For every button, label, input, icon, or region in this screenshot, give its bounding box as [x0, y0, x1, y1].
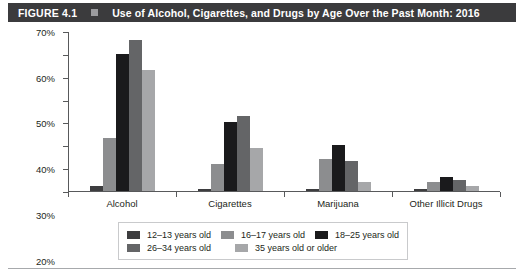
legend-swatch-icon [127, 231, 140, 239]
category-label: Alcohol [68, 198, 176, 209]
bar [237, 116, 250, 191]
bar [345, 161, 358, 191]
chart-legend: 12–13 years old16–17 years old18–25 year… [118, 222, 408, 260]
bar [453, 180, 466, 191]
figure-title: Use of Alcohol, Cigarettes, and Drugs by… [112, 7, 479, 19]
bar [198, 189, 211, 191]
figure-header: FIGURE 4.1 Use of Alcohol, Cigarettes, a… [8, 3, 516, 22]
bottom-divider [8, 268, 516, 269]
x-tick [176, 192, 177, 197]
category-label: Cigarettes [176, 198, 284, 209]
y-tick-label: 50% [36, 118, 55, 129]
y-tick-label: 70% [36, 27, 55, 38]
legend-item: 18–25 years old [315, 230, 399, 240]
legend-item: 26–34 years old [127, 243, 235, 253]
bar-group [284, 31, 392, 191]
bar [211, 164, 224, 191]
legend-label: 18–25 years old [335, 230, 399, 240]
bar [250, 148, 263, 191]
legend-swatch-icon [315, 231, 328, 239]
x-tick [392, 192, 393, 197]
category-label: Marijuana [284, 198, 392, 209]
legend-row: 12–13 years old16–17 years old18–25 year… [127, 228, 399, 241]
figure-number: FIGURE 4.1 [18, 7, 77, 19]
chart-plot-area: 0%10%20%30%40%50%60%70% AlcoholCigarette… [8, 26, 516, 216]
legend-swatch-icon [235, 244, 248, 252]
bar [224, 122, 237, 191]
y-tick-label: 30% [36, 209, 55, 220]
bar [90, 186, 103, 191]
legend-label: 35 years old or older [255, 243, 337, 253]
bar [129, 40, 142, 191]
x-tick [68, 192, 69, 197]
legend-item: 12–13 years old [127, 230, 221, 240]
legend-item: 35 years old or older [235, 243, 343, 253]
bar [466, 186, 479, 191]
legend-label: 16–17 years old [241, 230, 305, 240]
bar [319, 159, 332, 191]
bar [427, 182, 440, 191]
category-labels: AlcoholCigarettesMarijuanaOther Illicit … [68, 198, 500, 209]
legend-row: 26–34 years old35 years old or older [127, 241, 399, 254]
bar-group [176, 31, 284, 191]
legend-label: 26–34 years old [147, 243, 211, 253]
bar [306, 189, 319, 191]
y-tick-label: 40% [36, 164, 55, 175]
bar-group [68, 31, 176, 191]
legend-item: 16–17 years old [221, 230, 315, 240]
square-bullet-icon [91, 9, 98, 16]
bar [142, 70, 155, 191]
bar-groups [68, 31, 500, 191]
legend-swatch-icon [221, 231, 234, 239]
x-tick [500, 192, 501, 197]
x-tick [284, 192, 285, 197]
y-tick-label: 20% [36, 255, 55, 266]
y-tick-label: 60% [36, 72, 55, 83]
bar [358, 182, 371, 191]
category-label: Other Illicit Drugs [392, 198, 500, 209]
legend-swatch-icon [127, 244, 140, 252]
bar [440, 177, 453, 191]
bar [414, 189, 427, 191]
figure-container: FIGURE 4.1 Use of Alcohol, Cigarettes, a… [0, 0, 524, 275]
bar-group [392, 31, 500, 191]
bar [103, 138, 116, 191]
legend-label: 12–13 years old [147, 230, 211, 240]
bar [332, 145, 345, 191]
axes: 0%10%20%30%40%50%60%70% AlcoholCigarette… [68, 32, 500, 192]
bar [116, 54, 129, 191]
